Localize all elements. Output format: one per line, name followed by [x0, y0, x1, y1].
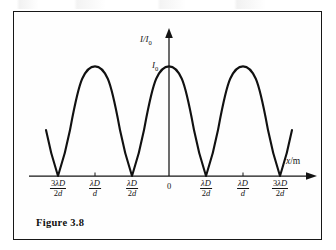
tick-neg-lambdaD-2d-denominator: 2d [126, 189, 138, 198]
scan-artifact [10, 0, 330, 9]
tick-neg-3lambdaD-2d-denominator: 2d [50, 189, 66, 198]
tick-pos-lambdaD-2d-denominator: 2d [200, 189, 212, 198]
tick-pos-3lambdaD-2d-denominator: 2d [272, 189, 288, 198]
tick-neg-lambdaD-d: λDd [89, 179, 101, 198]
tick-neg-lambdaD-2d: λD2d [126, 179, 138, 198]
y-axis-arrow-icon [165, 28, 173, 38]
tick-pos-lambdaD-2d: λD2d [200, 179, 212, 198]
y-axis-label-subscript: 0 [149, 39, 152, 46]
x-axis-label-unit: /m [290, 156, 300, 166]
peak-intensity-label: I0 [152, 60, 158, 72]
figure-caption: Figure 3.8 [36, 217, 84, 228]
peak-intensity-subscript: 0 [155, 65, 158, 72]
y-axis-label-text: I/I [140, 34, 149, 44]
figure-frame: I/I0 x/m I0 3λD2dλDdλD2d0λD2dλDd3λD2d Fi… [13, 11, 322, 240]
x-axis-arrow-icon [306, 172, 317, 180]
tick-pos-3lambdaD-2d: 3λD2d [272, 179, 288, 198]
y-axis-label: I/I0 [140, 34, 152, 46]
tick-neg-lambdaD-d-denominator: d [89, 189, 101, 198]
tick-zero: 0 [167, 181, 171, 191]
plot-area: I/I0 x/m I0 3λD2dλDdλD2d0λD2dλDd3λD2d [14, 12, 323, 241]
interference-plot-svg [14, 12, 323, 241]
tick-pos-lambdaD-d: λDd [237, 179, 249, 198]
tick-neg-3lambdaD-2d: 3λD2d [50, 179, 66, 198]
tick-pos-lambdaD-d-denominator: d [237, 189, 249, 198]
x-axis-label: x/m [286, 156, 300, 166]
